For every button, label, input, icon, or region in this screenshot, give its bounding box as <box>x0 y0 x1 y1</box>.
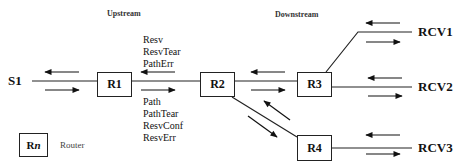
downstream-messages: Path PathTear ResvConf ResvErr <box>143 96 183 144</box>
message-path: Path <box>143 96 183 108</box>
message-resvconf: ResvConf <box>143 120 183 132</box>
legend-symbol-suffix: n <box>34 139 40 151</box>
upstream-messages: Resv ResvTear PathErr <box>143 34 181 70</box>
router-r4: R4 <box>297 135 332 161</box>
arrow-upstream-r2-r4 <box>264 101 290 120</box>
receiver-rcv3: RCV3 <box>418 141 453 154</box>
message-resv: Resv <box>143 34 181 46</box>
source-s1: S1 <box>8 74 22 87</box>
downstream-label: Downstream <box>275 11 318 19</box>
link-r3-rcv1 <box>326 32 412 72</box>
router-r3: R3 <box>297 72 332 97</box>
legend-router-symbol: Rn <box>19 133 48 157</box>
message-patherr: PathErr <box>143 58 181 70</box>
legend-router-label: Router <box>60 141 85 150</box>
upstream-label: Upstream <box>107 10 141 18</box>
legend-symbol-prefix: R <box>26 139 34 151</box>
receiver-rcv1: RCV1 <box>418 25 453 38</box>
receiver-rcv2: RCV2 <box>418 80 453 93</box>
arrow-downstream-r2-r4 <box>248 116 277 137</box>
message-resverr: ResvErr <box>143 132 183 144</box>
router-r1: R1 <box>97 72 132 97</box>
message-resvtear: ResvTear <box>143 46 181 58</box>
link-r2-r4 <box>232 97 297 137</box>
router-r2: R2 <box>200 72 235 97</box>
message-pathtear: PathTear <box>143 108 183 120</box>
